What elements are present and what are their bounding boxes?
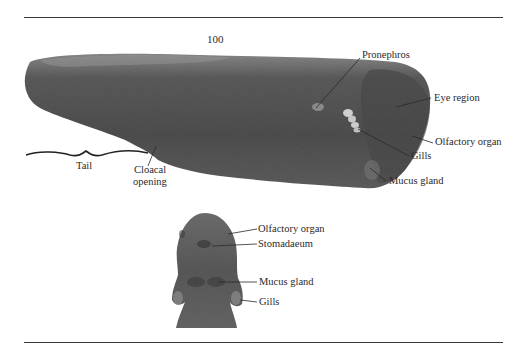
label-mucus-gland: Mucus gland — [389, 175, 444, 187]
label-v-mucus-gland: Mucus gland — [259, 276, 314, 288]
label-olfactory-organ: Olfactory organ — [435, 136, 502, 148]
leader-v-olfactory-organ — [228, 229, 257, 234]
label-pronephros: Pronephros — [362, 49, 410, 61]
label-eye-region: Eye region — [434, 92, 480, 104]
label-cloacal-opening-line2: opening — [133, 176, 167, 188]
label-tail: Tail — [76, 160, 92, 172]
tail-brace — [26, 151, 148, 156]
label-v-olfactory-organ: Olfactory organ — [258, 223, 325, 235]
label-v-stomadaeum: Stomadaeum — [258, 238, 313, 250]
label-v-gills: Gills — [259, 296, 279, 308]
leader-v-gills — [240, 300, 257, 302]
label-gills: Gills — [411, 150, 431, 162]
ventral-view-embryo — [172, 213, 243, 328]
label-cloacal-opening-line1: Cloacal — [134, 164, 166, 176]
